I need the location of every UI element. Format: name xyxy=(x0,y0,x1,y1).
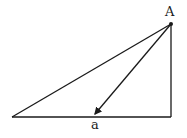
apex-label: A xyxy=(165,5,174,18)
vector-a-arrow xyxy=(95,24,171,114)
vector-label: a xyxy=(91,118,99,131)
apex-point xyxy=(169,22,173,26)
hypotenuse-line xyxy=(12,24,171,117)
